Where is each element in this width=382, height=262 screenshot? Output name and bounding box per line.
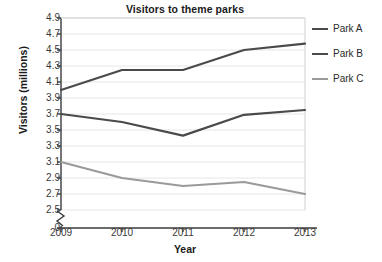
axis-break-marker <box>57 211 64 226</box>
legend-line-swatch-icon <box>312 78 328 80</box>
legend-item-label: Park A <box>333 23 362 34</box>
series-line-park-a <box>61 44 305 90</box>
legend-item-park-c[interactable]: Park C <box>312 66 382 91</box>
legend-item-label: Park B <box>333 48 363 59</box>
legend-item-label: Park C <box>333 73 364 84</box>
legend-line-swatch-icon <box>312 53 328 55</box>
legend-item-park-b[interactable]: Park B <box>312 41 382 66</box>
legend-line-swatch-icon <box>312 28 328 30</box>
line-chart: Visitors to theme parks Visitors (millio… <box>0 0 382 262</box>
legend-item-park-a[interactable]: Park A <box>312 16 382 41</box>
chart-legend: Park APark BPark C <box>312 16 382 91</box>
